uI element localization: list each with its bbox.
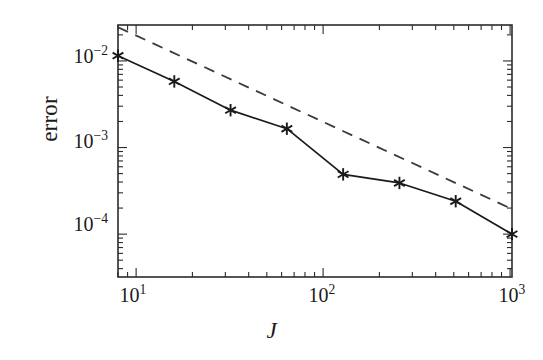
data-point-marker xyxy=(281,123,292,135)
x-tick-exponent: 2 xyxy=(329,282,336,297)
x-tick-exponent: 3 xyxy=(519,282,526,297)
x-tick-mantissa: 10 xyxy=(120,284,140,306)
data-point-marker xyxy=(225,104,236,116)
x-tick-label-1e1: 101 xyxy=(98,285,168,305)
x-tick-exponent: 1 xyxy=(140,282,147,297)
x-axis-title: J xyxy=(0,318,543,344)
y-tick-mantissa: 10 xyxy=(74,213,94,235)
y-tick-mantissa: 10 xyxy=(74,45,94,67)
x-tick-mantissa: 10 xyxy=(499,284,519,306)
x-tick-mantissa: 10 xyxy=(309,284,329,306)
y-tick-exponent: −4 xyxy=(94,211,108,226)
data-point-marker xyxy=(113,49,124,61)
reference-slope-polyline xyxy=(118,27,512,209)
reference-slope-line xyxy=(118,27,512,209)
y-tick-label-1e-4: 10−4 xyxy=(30,214,108,234)
y-tick-exponent: −3 xyxy=(94,128,108,143)
error-data-markers xyxy=(113,49,518,240)
y-tick-exponent: −2 xyxy=(94,43,108,58)
data-point-marker xyxy=(450,195,461,207)
data-point-marker xyxy=(169,75,180,87)
y-tick-label-1e-3: 10−3 xyxy=(30,131,108,151)
y-tick-mantissa: 10 xyxy=(74,130,94,152)
figure-log-log-error-plot: error J 10−2 10−3 10−4 101 102 103 xyxy=(0,0,543,360)
x-tick-label-1e3: 103 xyxy=(477,285,543,305)
x-tick-label-1e2: 102 xyxy=(287,285,357,305)
y-tick-label-1e-2: 10−2 xyxy=(30,46,108,66)
